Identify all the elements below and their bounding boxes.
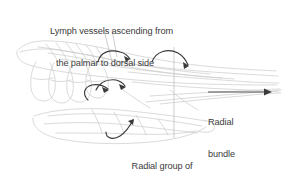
limb-connector-1 [120, 88, 150, 108]
label-lymph-vessels-line2: the palmar to dorsal side [50, 58, 160, 69]
label-territory-line1: Radial [208, 117, 278, 128]
vessel-arrowhead-2 [183, 62, 189, 69]
lower-forearm-crease-1 [48, 114, 202, 126]
label-lymph-vessels: Lymph vessels ascending from the palmar … [50, 5, 160, 90]
label-radial-bundle-territory: Radial bundle territory [208, 96, 278, 175]
lower-forearm-crease-2 [44, 123, 198, 133]
lower-forearm-striation-3 [136, 115, 146, 135]
label-radial-group-of-lymphatics: Radial group of lymphatics [113, 140, 211, 175]
label-radial-group-line1: Radial group of [113, 161, 211, 172]
fascia-line-1 [150, 89, 280, 96]
anatomy-figure: Lymph vessels ascending from the palmar … [0, 0, 282, 175]
label-territory-line2: bundle [208, 149, 278, 160]
label-lymph-vessels-line1: Lymph vessels ascending from [50, 26, 160, 37]
lower-forearm-striation-4 [158, 119, 168, 135]
